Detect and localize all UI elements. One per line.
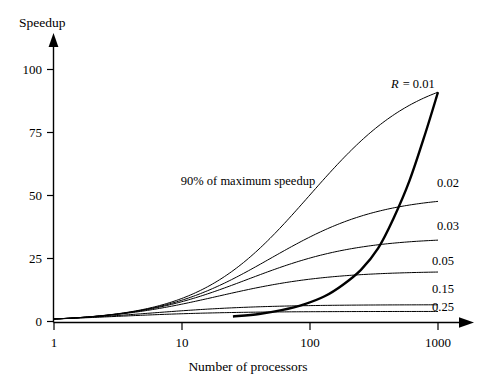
- series-label-r-0-01: R= 0.01: [390, 77, 435, 91]
- speedup-chart: 100 75 50 25 0 1 10 100 1000 Speedup Num…: [0, 0, 498, 391]
- y-tick-label-50: 50: [29, 188, 42, 203]
- curve-r-0-01: [54, 92, 438, 319]
- chart-svg: 100 75 50 25 0 1 10 100 1000 Speedup Num…: [0, 0, 498, 391]
- x-tick-label-100: 100: [300, 335, 320, 350]
- series-label-0-03: 0.03: [437, 219, 459, 233]
- series-label-0-02: 0.02: [437, 176, 459, 190]
- annotation-90-percent-max-speedup: 90% of maximum speedup: [181, 174, 315, 188]
- series-label-0-05: 0.05: [432, 254, 454, 268]
- x-axis-arrowhead: [459, 317, 474, 328]
- x-tick-labels-group: 1 10 100 1000: [51, 335, 451, 350]
- series-labels-group: R= 0.01 0.02 0.03 0.05 0.15 0.25: [390, 77, 459, 314]
- x-tick-label-1000: 1000: [425, 335, 451, 350]
- r-value: = 0.01: [403, 77, 435, 91]
- y-ticks-group: [47, 70, 54, 322]
- y-tick-labels-group: 100 75 50 25 0: [23, 62, 43, 329]
- y-tick-label-25: 25: [29, 251, 42, 266]
- x-ticks-group: [54, 323, 438, 331]
- r-symbol: R: [390, 77, 399, 91]
- x-axis-title: Number of processors: [188, 359, 307, 374]
- series-label-0-25: 0.25: [432, 300, 454, 314]
- curves-group: [54, 92, 438, 319]
- y-tick-label-100: 100: [23, 62, 43, 77]
- curve-90-percent-max-speedup: [233, 92, 438, 316]
- y-tick-label-75: 75: [29, 125, 42, 140]
- y-tick-label-0: 0: [36, 314, 43, 329]
- y-axis-title: Speedup: [19, 15, 66, 30]
- x-tick-label-1: 1: [51, 335, 58, 350]
- y-axis-arrowhead: [49, 33, 59, 47]
- series-label-0-15: 0.15: [432, 282, 454, 296]
- x-tick-label-10: 10: [176, 335, 189, 350]
